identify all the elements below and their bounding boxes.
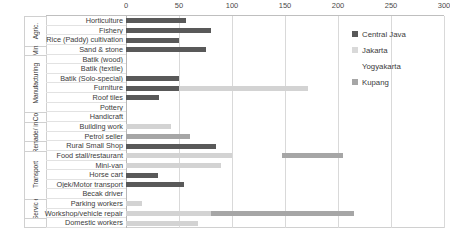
group-label: Servic e (32, 199, 39, 219)
category-row: Pottery (46, 103, 126, 113)
category-row: Parking workers (46, 199, 126, 209)
bar-segment (126, 182, 184, 187)
group-label: Transport (32, 161, 39, 188)
bar-segment (126, 47, 206, 52)
category-row: Rice (Paddy) cultivation (46, 35, 126, 45)
bar-segment (282, 153, 343, 158)
category-row: Petrol seller (46, 132, 126, 142)
group-band: Trade/ inst (24, 122, 46, 142)
category-row: Mini-van (46, 161, 126, 171)
gridline-2 (232, 16, 233, 228)
group-label: Co (32, 113, 39, 121)
category-row: Food stall/restaurant (46, 151, 126, 161)
bar-segment (126, 153, 232, 158)
group-label: Trade/ inst (32, 122, 39, 142)
legend-swatch-icon (352, 79, 358, 85)
category-row: Fishery (46, 26, 126, 36)
x-tick-label-3: 150 (279, 1, 292, 10)
bar-segment (126, 18, 186, 23)
bar-segment (126, 76, 179, 81)
category-row: Building work (46, 122, 126, 132)
bar-segment (126, 134, 190, 139)
category-row: Batik (textile) (46, 64, 126, 74)
category-row: Sand & stone (46, 45, 126, 55)
x-tick-label-0: 0 (124, 1, 128, 10)
bar-segment (126, 124, 171, 129)
category-row: Workshop/vehicle repair (46, 209, 126, 219)
legend-swatch-icon (352, 63, 358, 69)
x-tick-label-1: 50 (175, 1, 183, 10)
legend-item[interactable]: Yogyakarta (352, 58, 446, 74)
group-label: Manufacturing (32, 63, 39, 103)
legend-label: Yogyakarta (362, 62, 401, 71)
bar-segment (126, 211, 211, 216)
bar-segment (126, 86, 179, 91)
x-tick-label-2: 100 (226, 1, 239, 10)
bar-segment (126, 163, 221, 168)
legend-label: Central Java (362, 30, 406, 39)
x-axis-top: 050100150200250300 (0, 0, 446, 16)
group-band: Transport (24, 151, 46, 200)
category-row: Roof tiles (46, 93, 126, 103)
category-row: Horticulture (46, 16, 126, 26)
bar-segment (211, 211, 354, 216)
category-row: Batik (wood) (46, 55, 126, 65)
legend-label: Kupang (362, 78, 389, 87)
legend-swatch-icon (352, 47, 358, 53)
plot-left-border (24, 16, 25, 228)
legend-item[interactable]: Kupang (352, 74, 446, 90)
bar-segment (126, 144, 216, 149)
bar-segment (126, 173, 158, 178)
category-row: Becak driver (46, 189, 126, 199)
bar-segment (126, 95, 159, 100)
category-row: Rural Small Shop (46, 141, 126, 151)
row-separator (46, 227, 126, 228)
bar-segment (126, 28, 211, 33)
x-tick-label-6: 300 (438, 1, 450, 10)
category-row: Horse cart (46, 170, 126, 180)
legend-item[interactable]: Central Java (352, 26, 446, 42)
legend-item[interactable]: Jakarta (352, 42, 446, 58)
category-row: Batik (Solo-special) (46, 74, 126, 84)
bar-segment (126, 221, 198, 226)
x-tick-label-5: 250 (385, 1, 398, 10)
group-spine: Agric.Min.ManufacturingCoTrade/ instRent… (24, 16, 47, 228)
category-row: Furniture (46, 83, 126, 93)
x-tick-label-4: 200 (332, 1, 345, 10)
group-band: Manufacturing (24, 55, 46, 114)
category-labels: HorticultureFisheryRice (Paddy) cultivat… (46, 16, 126, 228)
group-band: Servic e (24, 199, 46, 219)
bar-segment (126, 201, 142, 206)
legend: Central JavaJakartaYogyakartaKupang (352, 26, 446, 90)
group-band: Agric. (24, 16, 46, 47)
legend-swatch-icon (352, 31, 358, 37)
bar-segment (126, 38, 179, 43)
gridline-3 (285, 16, 286, 228)
category-row: Domestic workers (46, 218, 126, 228)
category-row: Handicraft (46, 112, 126, 122)
legend-label: Jakarta (362, 46, 388, 55)
gridline-4 (338, 16, 339, 228)
group-label: Agric. (32, 23, 39, 39)
bar-segment (179, 86, 308, 91)
category-row: Ojek/Motor transport (46, 180, 126, 190)
